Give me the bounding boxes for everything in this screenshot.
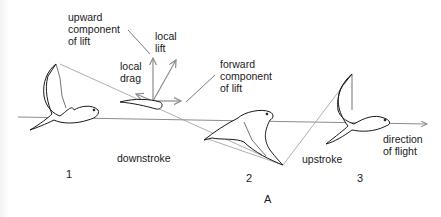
label-line: of flight bbox=[383, 145, 423, 157]
label-downstroke: downstroke bbox=[117, 152, 171, 164]
label-line: drag bbox=[120, 72, 142, 84]
label-line: of lift bbox=[220, 82, 272, 94]
airfoil-section bbox=[120, 99, 162, 109]
upward-component-leader bbox=[128, 30, 150, 54]
bird-2 bbox=[204, 110, 283, 165]
wingtip-path bbox=[60, 64, 352, 165]
label-upward-component-of-lift: upward component of lift bbox=[68, 11, 120, 47]
label-line: forward bbox=[220, 58, 272, 70]
label-local-drag: local drag bbox=[120, 60, 142, 84]
position-label-1: 1 bbox=[66, 168, 72, 180]
label-upstroke: upstroke bbox=[302, 153, 342, 165]
label-line: upward bbox=[68, 11, 120, 23]
position-label-3: 3 bbox=[357, 172, 363, 184]
label-line: component bbox=[68, 23, 120, 35]
label-forward-component-of-lift: forward component of lift bbox=[220, 58, 272, 94]
position-label-2: 2 bbox=[246, 172, 252, 184]
label-line: component bbox=[220, 70, 272, 82]
label-local-lift: local lift bbox=[155, 30, 177, 54]
label-line: lift bbox=[155, 42, 177, 54]
label-line: direction bbox=[383, 133, 423, 145]
panel-label: A bbox=[264, 193, 271, 205]
bird-1 bbox=[30, 64, 99, 130]
label-line: of lift bbox=[68, 35, 120, 47]
bird-3 bbox=[326, 74, 390, 144]
flight-diagram: upward component of lift local lift loca… bbox=[0, 0, 441, 217]
force-vectors bbox=[136, 58, 181, 101]
label-line: local bbox=[155, 30, 177, 42]
label-line: local bbox=[120, 60, 142, 72]
forward-component-leader bbox=[186, 75, 215, 102]
label-direction-of-flight: direction of flight bbox=[383, 133, 423, 157]
diagram-drawing bbox=[0, 0, 441, 217]
local-lift-vector bbox=[153, 60, 176, 101]
